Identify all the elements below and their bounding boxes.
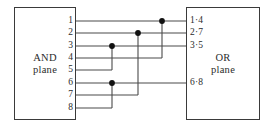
output-label-6-8: 6·8	[190, 78, 203, 88]
pin-number-7: 7	[61, 90, 73, 100]
wire-layer	[0, 0, 274, 132]
output-label-2-7: 2·7	[190, 28, 203, 38]
pin-number-5: 5	[61, 65, 73, 75]
pin-number-4: 4	[61, 53, 73, 63]
pin-number-1: 1	[61, 16, 73, 26]
junction-row6-dot	[109, 80, 115, 86]
junction-row2-dot	[135, 30, 141, 36]
pla-interconnect-diagram: AND plane OR plane 12345678 1·42·73·56·8	[0, 0, 274, 132]
pin-number-2: 2	[61, 28, 73, 38]
junction-row3-dot	[109, 43, 115, 49]
junction-row1-dot	[159, 18, 165, 24]
pin-number-6: 6	[61, 78, 73, 88]
pin-number-3: 3	[61, 41, 73, 51]
output-label-1-4: 1·4	[190, 16, 203, 26]
output-label-3-5: 3·5	[190, 41, 203, 51]
pin-number-8: 8	[61, 103, 73, 113]
